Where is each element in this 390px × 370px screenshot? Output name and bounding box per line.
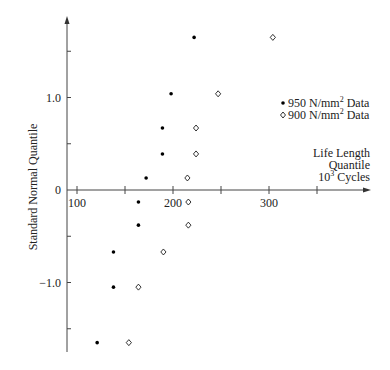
data-point bbox=[192, 36, 196, 40]
quantile-plot: 1.00−1.0 100200300 Standard Normal Quant… bbox=[0, 0, 390, 370]
x-axis-arrow-icon bbox=[363, 188, 371, 193]
x-tick-label: 200 bbox=[164, 196, 182, 210]
x-axis-title-line3: 103 Cycles bbox=[318, 169, 370, 184]
x-tick-label: 100 bbox=[68, 196, 86, 210]
y-ticks: 1.00−1.0 bbox=[39, 51, 71, 329]
filled-dot-icon bbox=[281, 101, 285, 105]
data-point bbox=[95, 341, 99, 345]
data-point bbox=[126, 340, 131, 346]
data-point bbox=[270, 34, 275, 40]
y-tick-label: 1.0 bbox=[46, 91, 61, 105]
y-tick-label: 0 bbox=[55, 183, 61, 197]
data-point bbox=[137, 200, 141, 204]
data-point bbox=[185, 175, 190, 181]
data-point bbox=[136, 284, 141, 290]
x-axis-title: Life Length Quantile 103 Cycles bbox=[313, 146, 370, 184]
data-point bbox=[186, 222, 191, 228]
y-axis-title: Standard Normal Quantile bbox=[26, 124, 40, 251]
data-point bbox=[112, 285, 116, 289]
y-axis-arrow-icon bbox=[65, 16, 70, 24]
data-point bbox=[112, 250, 116, 254]
y-tick-label: −1.0 bbox=[39, 276, 61, 290]
open-diamond-icon bbox=[281, 112, 286, 118]
data-point bbox=[186, 199, 191, 205]
data-point bbox=[144, 176, 148, 180]
data-point bbox=[216, 91, 221, 97]
data-point bbox=[193, 125, 198, 131]
data-point bbox=[193, 151, 198, 157]
data-point bbox=[137, 223, 141, 227]
legend-item-900: 900 N/mm2 Data bbox=[281, 107, 370, 122]
legend-label-900: 900 N/mm2 Data bbox=[288, 107, 370, 122]
data-point bbox=[161, 126, 165, 130]
data-point bbox=[161, 152, 165, 156]
data-point bbox=[161, 249, 166, 255]
x-axis: 100200300 bbox=[67, 186, 371, 210]
x-tick-label: 300 bbox=[260, 196, 278, 210]
y-axis: 1.00−1.0 bbox=[39, 16, 71, 352]
data-point bbox=[169, 92, 173, 96]
legend: 950 N/mm2 Data 900 N/mm2 Data bbox=[281, 95, 370, 122]
